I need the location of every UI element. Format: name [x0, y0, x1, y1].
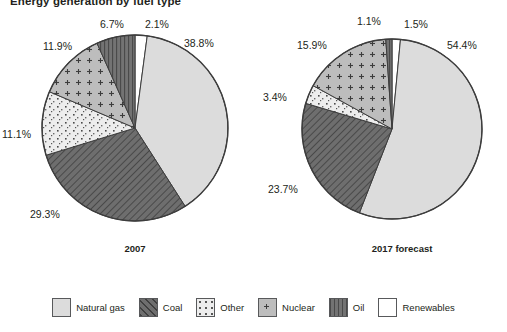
legend-label: Oil — [353, 302, 365, 313]
legend-item-natural-gas[interactable]: Natural gas — [52, 298, 125, 317]
pct-label-coal-2007: 29.3% — [30, 209, 60, 220]
pie-chart-2007 — [40, 33, 230, 225]
legend-swatch-nuclear-icon — [258, 298, 277, 317]
pct-label-other-2007: 11.1% — [2, 129, 31, 140]
legend-swatch-other-icon — [196, 298, 215, 317]
legend-swatch-oil-icon — [329, 298, 348, 317]
legend-label: Coal — [163, 302, 183, 313]
chart-legend: Natural gasCoalOtherNuclearOilRenewables — [0, 298, 507, 317]
chart-root: Energy generation by fuel type — [0, 0, 507, 332]
pie-slices-2007 — [42, 35, 228, 221]
pie-svg-2007 — [40, 33, 230, 225]
legend-item-renewables[interactable]: Renewables — [378, 298, 454, 317]
pie-caption-2007: 2007 — [95, 243, 175, 254]
pie-caption-2017-forecast: 2017 forecast — [352, 243, 452, 254]
legend-item-oil[interactable]: Oil — [329, 298, 365, 317]
pct-label-natural-gas-2017: 54.4% — [447, 40, 477, 51]
pct-label-renewables-2007: 2.1% — [145, 19, 169, 30]
pct-label-other-2017: 3.4% — [263, 92, 287, 103]
legend-label: Natural gas — [76, 302, 125, 313]
legend-label: Other — [220, 302, 244, 313]
legend-swatch-coal-icon — [139, 298, 158, 317]
legend-swatch-renewables-icon — [378, 298, 397, 317]
legend-label: Nuclear — [282, 302, 315, 313]
pct-label-nuclear-2007: 11.9% — [43, 41, 72, 52]
pct-label-renewables-2017: 1.5% — [404, 19, 428, 30]
pct-label-coal-2017: 23.7% — [268, 184, 298, 195]
pie-slices-2017-forecast — [302, 39, 482, 219]
legend-label: Renewables — [402, 302, 454, 313]
legend-item-coal[interactable]: Coal — [139, 298, 183, 317]
pct-label-oil-2017: 1.1% — [357, 16, 381, 27]
pct-label-nuclear-2017: 15.9% — [297, 40, 327, 51]
chart-title: Energy generation by fuel type — [10, 0, 181, 7]
legend-item-other[interactable]: Other — [196, 298, 244, 317]
legend-item-nuclear[interactable]: Nuclear — [258, 298, 315, 317]
pct-label-oil-2007: 6.7% — [100, 19, 124, 30]
pie-chart-2017-forecast — [301, 38, 485, 224]
legend-swatch-natural-gas-icon — [52, 298, 71, 317]
pct-label-natural-gas-2007: 38.8% — [184, 38, 214, 49]
pie-svg-2017-forecast — [301, 38, 485, 224]
